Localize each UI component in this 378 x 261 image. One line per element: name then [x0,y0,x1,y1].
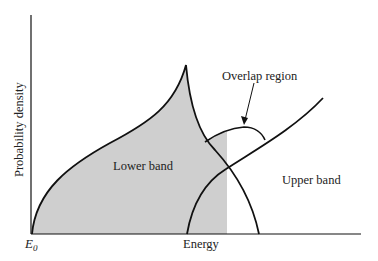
overlap-arrow [245,83,254,120]
y-axis-label: Probability density [12,81,26,177]
origin-subscript: 0 [33,243,38,253]
origin-symbol: E [24,236,33,251]
lower-band-shading [32,65,259,234]
arrow-head-icon [241,116,248,125]
x-axis-label: Energy [183,237,220,251]
lower-band-label: Lower band [113,159,174,173]
upper-band-label: Upper band [282,173,341,187]
overlap-region-label: Overlap region [222,69,298,83]
band-overlap-diagram: Overlap region Lower band Upper band Ene… [0,0,378,261]
origin-label: E0 [24,236,38,253]
